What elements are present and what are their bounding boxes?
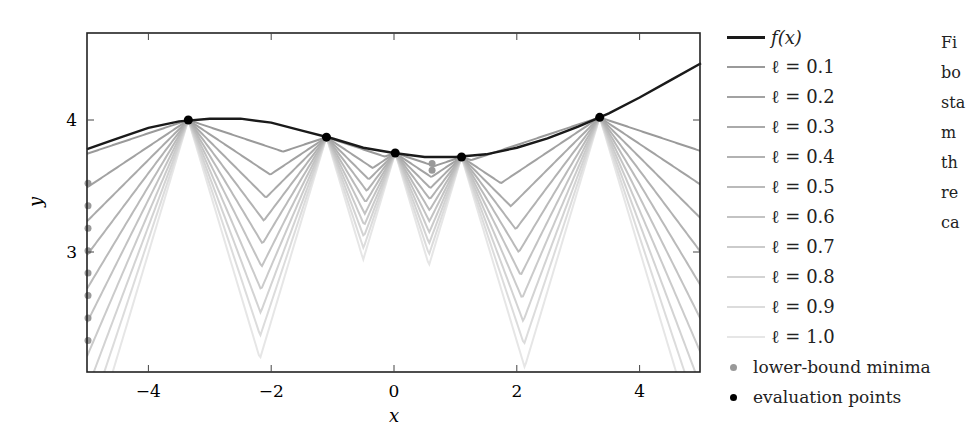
legend-label: ℓ = 0.1	[771, 56, 835, 78]
legend-label: ℓ = 0.2	[771, 86, 835, 108]
caption-line: sta	[941, 88, 970, 118]
legend-item-series: ℓ = 0.9	[727, 292, 931, 322]
chart-plot: −4−202434 x y	[0, 0, 720, 433]
caption-line: m	[941, 118, 970, 148]
minima-marker	[85, 337, 92, 344]
caption-line: th	[941, 148, 970, 178]
x-tick-label: −2	[259, 381, 284, 401]
legend-item-minima: lower-bound minima	[727, 352, 931, 382]
caption-line: bo	[941, 58, 970, 88]
evaluation-marker	[184, 116, 193, 125]
legend-swatch	[727, 186, 765, 188]
minima-marker	[85, 292, 92, 299]
axis-ticks: −4−202434	[66, 33, 700, 401]
minima-marker	[85, 247, 92, 254]
plot-frame	[87, 33, 700, 372]
legend-item-series: ℓ = 0.2	[727, 82, 931, 112]
y-tick-label: 4	[66, 110, 77, 130]
minima-marker	[429, 160, 436, 167]
minima-marker	[85, 315, 92, 322]
minima-marker	[429, 167, 436, 174]
legend-item-series: ℓ = 0.5	[727, 172, 931, 202]
minima-marker	[85, 270, 92, 277]
legend-item-series: ℓ = 0.3	[727, 112, 931, 142]
y-tick-label: 3	[66, 242, 77, 262]
legend-label-minima: lower-bound minima	[753, 357, 931, 377]
caption-line: Fi	[941, 28, 970, 58]
black-dot-icon	[730, 394, 737, 401]
minima-marker	[85, 202, 92, 209]
legend-label-f: f(x)	[771, 27, 802, 48]
legend-swatch	[727, 126, 765, 128]
x-tick-label: 0	[389, 381, 400, 401]
legend-item-eval: evaluation points	[727, 382, 931, 412]
evaluation-marker	[322, 133, 331, 142]
legend-swatch	[727, 216, 765, 218]
legend-item-f: f(x)	[727, 22, 931, 52]
evaluation-marker	[457, 152, 466, 161]
x-tick-label: 4	[634, 381, 645, 401]
legend-label: ℓ = 0.7	[771, 236, 835, 258]
legend-swatch	[727, 66, 765, 68]
minima-marker	[85, 225, 92, 232]
legend-item-series: ℓ = 0.1	[727, 52, 931, 82]
legend-label: ℓ = 0.6	[771, 206, 835, 228]
legend-label-eval: evaluation points	[753, 387, 901, 407]
legend-label: ℓ = 0.3	[771, 116, 835, 138]
legend: f(x) ℓ = 0.1ℓ = 0.2ℓ = 0.3ℓ = 0.4ℓ = 0.5…	[727, 22, 931, 412]
evaluation-marker	[595, 113, 604, 122]
caption-line: re	[941, 178, 970, 208]
legend-label: ℓ = 0.4	[771, 146, 835, 168]
legend-label: ℓ = 0.8	[771, 266, 835, 288]
legend-item-series: ℓ = 0.4	[727, 142, 931, 172]
legend-swatch-f	[727, 36, 765, 39]
minima-marker	[85, 180, 92, 187]
gray-dot-icon	[730, 364, 737, 371]
evaluation-marker	[391, 149, 400, 158]
legend-item-series: ℓ = 0.6	[727, 202, 931, 232]
x-axis-label: x	[389, 405, 399, 426]
caption-line: ca	[941, 208, 970, 238]
legend-swatch	[727, 246, 765, 248]
legend-swatch	[727, 336, 765, 338]
y-axis-label: y	[25, 196, 46, 208]
legend-swatch	[727, 156, 765, 158]
legend-label: ℓ = 1.0	[771, 326, 835, 348]
x-tick-label: 2	[511, 381, 522, 401]
legend-swatch	[727, 276, 765, 278]
lower-bound-curve	[87, 117, 701, 423]
legend-item-series: ℓ = 1.0	[727, 322, 931, 352]
figure-caption: Fibostamthreca	[941, 28, 970, 238]
legend-item-series: ℓ = 0.8	[727, 262, 931, 292]
x-tick-label: −4	[136, 381, 161, 401]
legend-swatch	[727, 306, 765, 308]
legend-item-series: ℓ = 0.7	[727, 232, 931, 262]
legend-label: ℓ = 0.9	[771, 296, 835, 318]
legend-label: ℓ = 0.5	[771, 176, 835, 198]
legend-swatch	[727, 96, 765, 98]
